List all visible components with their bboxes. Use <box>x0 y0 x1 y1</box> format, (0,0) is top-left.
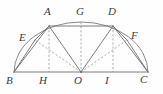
segment-DO <box>81 26 113 72</box>
dashed-lines-group <box>35 22 127 72</box>
point-label-C: C <box>140 74 147 85</box>
vertex-dots-group <box>80 71 82 73</box>
vertex-dot-O <box>80 71 82 73</box>
point-label-B: B <box>6 75 13 86</box>
point-label-F: F <box>131 30 138 41</box>
point-label-H: H <box>39 75 47 86</box>
point-label-I: I <box>105 75 109 86</box>
point-label-D: D <box>108 6 116 17</box>
radius-OF <box>81 40 127 72</box>
point-label-O: O <box>74 75 82 86</box>
point-label-G: G <box>76 6 84 17</box>
point-label-E: E <box>19 32 26 43</box>
radius-OE <box>35 40 81 72</box>
geometry-figure: AGDEFBHOIC <box>0 0 163 94</box>
segment-AO <box>49 26 81 72</box>
point-label-A: A <box>44 6 51 17</box>
